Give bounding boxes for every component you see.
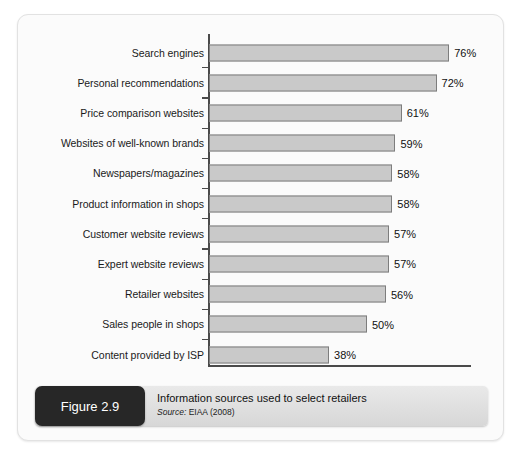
- category-label: Price comparison websites: [80, 107, 204, 119]
- category-label: Personal recommendations: [77, 77, 204, 89]
- bar: [209, 104, 402, 121]
- source-label: Source:: [157, 407, 186, 417]
- bar-row: Product information in shops58%: [18, 188, 505, 219]
- category-label: Retailer websites: [125, 288, 204, 300]
- category-label: Search engines: [132, 47, 204, 59]
- source-value: EIAA (2008): [189, 407, 235, 417]
- bar: [209, 74, 437, 91]
- bar-value-label: 38%: [329, 349, 356, 361]
- bar: [209, 44, 449, 61]
- bar-track: 50%: [209, 316, 367, 333]
- axis-tick: [202, 218, 208, 219]
- bar: [209, 255, 389, 272]
- category-label: Customer website reviews: [83, 228, 204, 240]
- figure-number-badge: Figure 2.9: [35, 386, 145, 426]
- bar: [209, 225, 389, 242]
- bar-track: 56%: [209, 286, 386, 303]
- category-label: Product information in shops: [72, 198, 204, 210]
- category-label: Websites of well-known brands: [61, 137, 204, 149]
- axis-tick: [202, 158, 208, 159]
- figure-caption-text: Information sources used to select retai…: [157, 391, 367, 418]
- bar-value-label: 57%: [389, 258, 416, 270]
- bar-row: Expert website reviews57%: [18, 248, 505, 279]
- bar: [209, 135, 395, 152]
- bar-row: Sales people in shops50%: [18, 309, 505, 340]
- bar: [209, 286, 386, 303]
- bar-track: 38%: [209, 346, 329, 363]
- bar-value-label: 76%: [449, 47, 476, 59]
- bar-row: Content provided by ISP38%: [18, 339, 505, 370]
- bar-row: Websites of well-known brands59%: [18, 128, 505, 159]
- axis-tick: [202, 128, 208, 129]
- figure-title: Information sources used to select retai…: [157, 391, 367, 405]
- axis-tick: [202, 188, 208, 189]
- category-label: Newspapers/magazines: [93, 167, 204, 179]
- bar-value-label: 58%: [392, 167, 419, 179]
- bar-value-label: 57%: [389, 228, 416, 240]
- bar-row: Price comparison websites61%: [18, 97, 505, 128]
- bar-row: Customer website reviews57%: [18, 218, 505, 249]
- bar: [209, 346, 329, 363]
- figure-caption-bar: Figure 2.9 Information sources used to s…: [35, 386, 488, 426]
- bar-track: 61%: [209, 104, 402, 121]
- bar-value-label: 58%: [392, 198, 419, 210]
- bar-track: 72%: [209, 74, 437, 91]
- bar-value-label: 50%: [367, 318, 394, 330]
- bar: [209, 165, 392, 182]
- figure-source: Source: EIAA (2008): [157, 406, 367, 418]
- axis-tick: [202, 339, 208, 340]
- bar-track: 58%: [209, 195, 392, 212]
- bar-track: 58%: [209, 165, 392, 182]
- bar: [209, 316, 367, 333]
- category-label: Sales people in shops: [102, 318, 204, 330]
- axis-tick: [202, 97, 208, 98]
- figure-panel: Search engines76%Personal recommendation…: [17, 14, 504, 441]
- bar-row: Search engines76%: [18, 37, 505, 68]
- bar-value-label: 56%: [386, 288, 413, 300]
- bar: [209, 195, 392, 212]
- axis-tick: [202, 248, 208, 249]
- axis-tick: [202, 279, 208, 280]
- bar-track: 57%: [209, 255, 389, 272]
- bar-row: Retailer websites56%: [18, 279, 505, 310]
- bar-row: Personal recommendations72%: [18, 67, 505, 98]
- bar-value-label: 61%: [402, 107, 429, 119]
- axis-tick: [202, 309, 208, 310]
- bar-value-label: 72%: [437, 77, 464, 89]
- category-label: Expert website reviews: [98, 258, 204, 270]
- axis-tick: [202, 67, 208, 68]
- bar-chart: Search engines76%Personal recommendation…: [18, 15, 505, 383]
- bar-track: 76%: [209, 44, 449, 61]
- category-label: Content provided by ISP: [91, 349, 204, 361]
- bar-track: 57%: [209, 225, 389, 242]
- bar-row: Newspapers/magazines58%: [18, 158, 505, 189]
- bar-value-label: 59%: [395, 137, 422, 149]
- bar-track: 59%: [209, 135, 395, 152]
